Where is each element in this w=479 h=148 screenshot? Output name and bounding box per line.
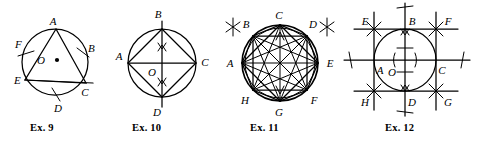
ex12-label-o: O (388, 66, 396, 78)
ex9-label-b: B (88, 42, 95, 54)
ex12-label-c: C (438, 64, 446, 76)
ex9-label-o: O (37, 54, 45, 66)
ex12-caption: Ex. 12 (385, 122, 414, 133)
ex12-label-b: B (409, 15, 416, 27)
ex12-label-e: E (361, 15, 369, 27)
ex11-drawing: B C D A E H F G (218, 0, 348, 120)
ex9-label-d: D (53, 102, 62, 114)
ex11-star-mark-d (320, 18, 334, 36)
figure-sheet: A B C D E F O Ex. 9 B (0, 0, 479, 148)
ex11-label-d: D (308, 18, 317, 30)
ex9-center-dot (55, 58, 59, 62)
ex11-label-g: G (275, 106, 283, 118)
ex11-label-e: E (326, 57, 334, 69)
ex11-label-c: C (275, 9, 283, 21)
ex9-caption: Ex. 9 (30, 122, 54, 133)
ex9-tick-mark-f (18, 51, 34, 56)
figure-ex10: B A C D O Ex. 10 (110, 0, 230, 120)
ex9-drawing: A B C D E F O (0, 0, 120, 120)
ex11-label-b: B (243, 18, 250, 30)
ex12-label-g: G (444, 96, 452, 108)
ex10-label-o: O (148, 66, 156, 78)
ex11-label-f: F (310, 94, 318, 106)
ex10-drawing: B A C D O (110, 0, 230, 120)
ex9-circle (22, 29, 88, 95)
ex12-label-a: A (376, 64, 384, 76)
ex12-drawing: E B F A O C H D G (340, 0, 479, 120)
ex11-star-mark-b (226, 18, 240, 36)
ex12-label-h: H (360, 96, 370, 108)
ex10-label-c: C (201, 56, 209, 68)
ex9-label-e: E (13, 74, 21, 86)
ex11-label-a: A (226, 57, 234, 69)
ex10-caption: Ex. 10 (132, 122, 161, 133)
figure-ex9: A B C D E F O Ex. 9 (0, 0, 120, 120)
ex11-label-h: H (240, 94, 250, 106)
figure-ex12: E B F A O C H D G Ex. 12 (340, 0, 479, 120)
ex10-label-b: B (155, 8, 162, 20)
ex9-label-a: A (49, 15, 57, 27)
ex11-caption: Ex. 11 (250, 122, 279, 133)
ex9-label-f: F (14, 38, 22, 50)
ex10-label-a: A (115, 50, 123, 62)
ex12-label-f: F (444, 15, 452, 27)
figure-ex11: B C D A E H F G Ex. 11 (218, 0, 348, 120)
ex12-label-d: D (407, 96, 416, 108)
ex10-label-d: D (152, 106, 161, 118)
ex9-label-c: C (81, 86, 89, 98)
